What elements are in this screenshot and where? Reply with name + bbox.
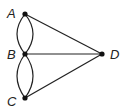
node-d — [99, 51, 104, 56]
label-b: B — [7, 47, 16, 62]
node-a — [22, 11, 27, 16]
edge-a-b-right — [25, 14, 33, 54]
label-d: D — [110, 47, 119, 62]
edge-b-c-right — [25, 54, 33, 98]
label-c: C — [7, 94, 17, 109]
edge-a-b-left — [17, 14, 25, 54]
node-b — [22, 51, 27, 56]
edge-a-d — [25, 14, 102, 54]
edge-b-c-left — [17, 54, 25, 98]
edge-c-d — [25, 54, 102, 98]
graph-diagram: A B C D — [0, 0, 128, 111]
label-a: A — [6, 6, 16, 21]
node-c — [22, 95, 27, 100]
